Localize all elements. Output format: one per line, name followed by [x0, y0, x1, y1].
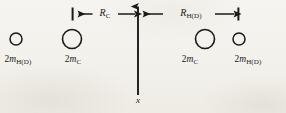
mass-symbol: m: [239, 54, 246, 64]
mass-label-left-outer: 2mH(D): [5, 55, 32, 66]
mass-subscript: H(D): [16, 58, 31, 66]
mass-subscript: C: [76, 58, 81, 66]
mass-symbol: m: [9, 54, 16, 64]
molecule-mass-diagram: 2mH(D) 2mC 2mC 2mH(D) RC RH(D) x: [0, 0, 286, 113]
mass-label-right-inner: 2mC: [182, 55, 198, 66]
mass-label-left-inner: 2mC: [65, 55, 81, 66]
dimension-subscript: C: [106, 12, 111, 20]
particle-left-outer: [10, 33, 22, 45]
mass-symbol: m: [70, 54, 77, 64]
dimension-subscript: H(D): [186, 12, 201, 20]
dimension-label-rhd: RH(D): [180, 8, 201, 20]
particle-right-inner: [196, 30, 215, 49]
x-axis-label: x: [136, 96, 140, 105]
particle-right-outer: [233, 33, 245, 45]
mass-label-right-outer: 2mH(D): [235, 55, 262, 66]
mass-subscript: H(D): [246, 58, 261, 66]
particle-circles: [10, 30, 245, 49]
mass-symbol: m: [187, 54, 194, 64]
mass-subscript: C: [193, 58, 198, 66]
dimension-label-rc: RC: [100, 8, 111, 20]
particle-left-inner: [63, 30, 82, 49]
